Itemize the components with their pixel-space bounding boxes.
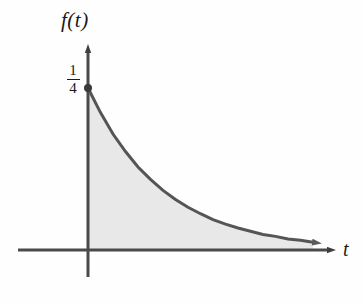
- fraction-numerator: 1: [62, 63, 84, 79]
- plot-svg: [0, 0, 362, 305]
- y-tick-label-one-quarter: 1 4: [62, 63, 84, 96]
- x-axis-label: t: [343, 238, 349, 261]
- figure-root: f(t) t 1 4: [0, 0, 362, 305]
- intercept-point-marker: [84, 84, 92, 92]
- fraction-denominator: 4: [62, 80, 84, 96]
- shaded-area-under-curve: [88, 88, 313, 250]
- y-axis-label: f(t): [61, 8, 89, 33]
